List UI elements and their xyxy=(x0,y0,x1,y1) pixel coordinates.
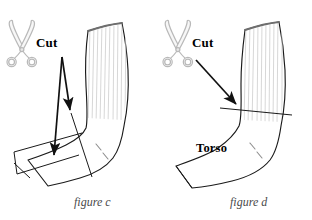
figure-caption: figure d xyxy=(230,196,267,208)
sock-cutting-diagram xyxy=(0,0,312,220)
figure-d-drawing xyxy=(163,17,292,188)
cut-arrow-band-c xyxy=(54,57,62,155)
figure-c-drawing xyxy=(7,18,128,186)
cut-label: Cut xyxy=(36,36,58,49)
illustration-canvas: Cut Cut Torso figure c figure d xyxy=(0,0,312,220)
scissors-icon xyxy=(7,20,37,66)
figure-caption: figure c xyxy=(74,196,111,208)
cut-arrow-ankle-c xyxy=(62,57,70,110)
cut-label: Cut xyxy=(192,36,214,49)
torso-label: Torso xyxy=(196,142,227,155)
scissors-icon xyxy=(163,20,192,66)
cut-arrow-ankle-d xyxy=(196,60,236,104)
